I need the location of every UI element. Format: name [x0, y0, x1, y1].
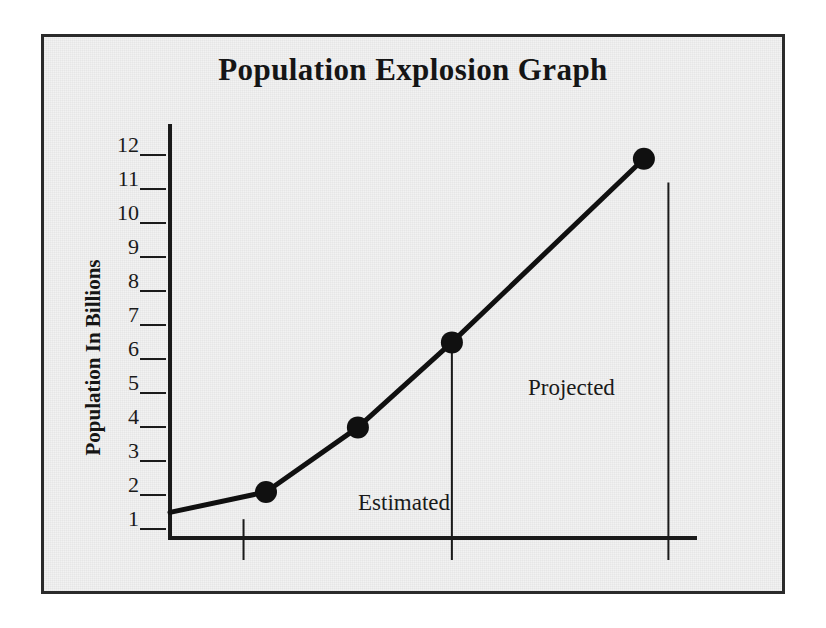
population-line [170, 159, 644, 513]
annotation-projected: Projected [528, 375, 615, 401]
data-point-marker [441, 331, 463, 353]
data-point-marker [347, 416, 369, 438]
figure-container: Population Explosion Graph Population In… [0, 0, 826, 628]
data-point-markers-group [255, 148, 655, 503]
data-point-marker [255, 481, 277, 503]
data-series-group [170, 159, 644, 513]
plot-area [0, 0, 826, 628]
divider-lines-group [244, 183, 669, 560]
data-point-marker [633, 148, 655, 170]
annotation-estimated: Estimated [358, 490, 450, 516]
